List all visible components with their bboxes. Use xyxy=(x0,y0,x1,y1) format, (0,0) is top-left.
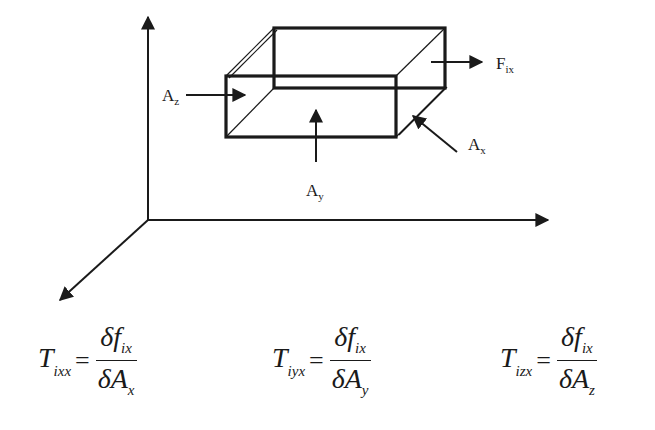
label-ay-base: A xyxy=(306,181,318,200)
numerator: δfix xyxy=(559,322,595,357)
label-ay: Ay xyxy=(306,182,324,202)
lhs-base: T xyxy=(500,342,516,373)
equation-tzx: Tizx = δfix δAz xyxy=(500,322,597,399)
den-base: δA xyxy=(98,363,128,394)
num-sub: ix xyxy=(121,340,132,356)
fraction-bar xyxy=(96,360,137,362)
diagonal-axis-arrow xyxy=(60,220,148,300)
numerator: δfix xyxy=(98,322,134,357)
lhs-sub: ixx xyxy=(54,363,71,379)
label-ax-base: A xyxy=(468,135,480,154)
num-base: δf xyxy=(561,321,582,352)
lhs-sub: izx xyxy=(516,363,533,379)
den-base: δA xyxy=(332,363,362,394)
label-ax-sub: x xyxy=(480,144,486,156)
num-base: δf xyxy=(334,321,355,352)
equation-lhs: Tixx xyxy=(38,342,71,380)
label-az: Az xyxy=(162,87,179,107)
equation-lhs: Tizx xyxy=(500,342,532,380)
fraction: δfix δAy xyxy=(330,322,371,399)
denominator: δAx xyxy=(96,364,137,399)
den-base: δA xyxy=(559,363,589,394)
den-sub: z xyxy=(589,382,595,398)
label-fix: Fix xyxy=(496,55,514,75)
equals-sign: = xyxy=(309,346,324,376)
fraction: δfix δAx xyxy=(96,322,137,399)
back-face xyxy=(274,28,445,88)
den-sub: y xyxy=(362,382,369,398)
equals-sign: = xyxy=(75,346,90,376)
lhs-base: T xyxy=(38,342,54,373)
lhs-sub: iyx xyxy=(288,363,305,379)
num-sub: ix xyxy=(582,340,593,356)
den-sub: x xyxy=(128,382,135,398)
equation-txx: Tixx = δfix δAx xyxy=(38,322,137,399)
depth-edges xyxy=(226,28,447,137)
coordinate-axes xyxy=(60,17,548,300)
front-face xyxy=(226,76,396,137)
numerator: δfix xyxy=(332,322,368,357)
cuboid-element xyxy=(226,28,447,137)
fraction-bar xyxy=(557,360,597,362)
lhs-base: T xyxy=(272,342,288,373)
equals-sign: = xyxy=(536,346,551,376)
fraction-bar xyxy=(330,360,371,362)
denominator: δAz xyxy=(557,364,597,399)
label-az-base: A xyxy=(162,86,174,105)
equation-lhs: Tiyx xyxy=(272,342,305,380)
denominator: δAy xyxy=(330,364,371,399)
ax-arrow xyxy=(413,116,457,152)
label-ay-sub: y xyxy=(318,190,324,202)
equation-tyx: Tiyx = δfix δAy xyxy=(272,322,371,399)
label-az-sub: z xyxy=(174,95,179,107)
fraction: δfix δAz xyxy=(557,322,597,399)
label-ax: Ax xyxy=(468,136,486,156)
num-base: δf xyxy=(100,321,121,352)
num-sub: ix xyxy=(355,340,366,356)
label-fix-sub: ix xyxy=(505,63,514,75)
